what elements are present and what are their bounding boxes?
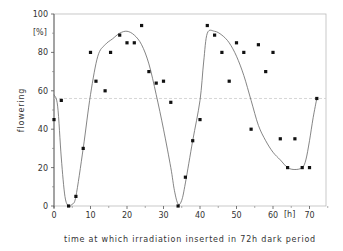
- data-point: [118, 34, 121, 37]
- data-points: [52, 24, 318, 208]
- data-point: [89, 51, 92, 54]
- data-point: [279, 137, 282, 140]
- y-axis-ticks: 020406080100: [33, 10, 54, 211]
- x-tick-label: 30: [158, 211, 168, 220]
- x-tick-label: 60: [268, 211, 278, 220]
- data-point: [257, 43, 260, 46]
- data-point: [147, 70, 150, 73]
- data-point: [133, 41, 136, 44]
- data-point: [140, 24, 143, 27]
- y-tick-label: 40: [38, 125, 48, 134]
- data-point: [94, 80, 97, 83]
- data-point: [74, 195, 77, 198]
- flowering-chart: 020406080100 010203040506070 [%] [h] tim…: [0, 0, 343, 251]
- x-tick-label: 50: [231, 211, 241, 220]
- data-point: [109, 51, 112, 54]
- data-point: [264, 70, 267, 73]
- data-point: [293, 137, 296, 140]
- data-point: [228, 80, 231, 83]
- data-point: [213, 34, 216, 37]
- data-point: [52, 118, 55, 121]
- data-point: [184, 176, 187, 179]
- data-point: [155, 82, 158, 85]
- y-tick-label: 100: [33, 10, 48, 19]
- y-tick-label: 20: [38, 164, 48, 173]
- data-point: [242, 51, 245, 54]
- data-point: [315, 97, 318, 100]
- data-point: [220, 51, 223, 54]
- x-axis-label: time at which irradiation inserted in 72…: [64, 235, 316, 244]
- data-point: [104, 89, 107, 92]
- data-point: [82, 147, 85, 150]
- x-tick-label: 10: [85, 211, 95, 220]
- data-point: [308, 166, 311, 169]
- data-point: [301, 166, 304, 169]
- x-unit-label: [h]: [284, 210, 295, 219]
- data-point: [286, 166, 289, 169]
- data-point: [206, 24, 209, 27]
- data-point: [198, 118, 201, 121]
- data-point: [67, 204, 70, 207]
- data-point: [162, 80, 165, 83]
- y-tick-label: 80: [38, 48, 48, 57]
- x-tick-label: 70: [304, 211, 314, 220]
- x-tick-label: 40: [195, 211, 205, 220]
- y-unit-label: [%]: [33, 28, 47, 37]
- fitted-curve: [54, 30, 317, 206]
- plot-frame: [54, 14, 326, 208]
- x-tick-label: 0: [51, 211, 56, 220]
- data-point: [125, 41, 128, 44]
- data-point: [235, 41, 238, 44]
- x-tick-label: 20: [122, 211, 132, 220]
- y-tick-label: 60: [38, 87, 48, 96]
- data-point: [271, 51, 274, 54]
- data-point: [60, 99, 63, 102]
- data-point: [177, 204, 180, 207]
- y-tick-label: 0: [43, 202, 48, 211]
- data-point: [169, 101, 172, 104]
- data-point: [250, 128, 253, 131]
- y-axis-label: flowering: [17, 88, 26, 132]
- data-point: [191, 139, 194, 142]
